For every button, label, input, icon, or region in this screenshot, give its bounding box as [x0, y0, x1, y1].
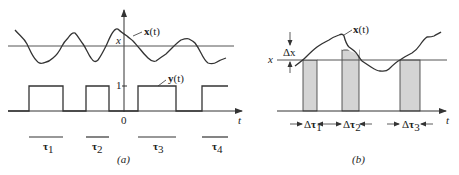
- signal-label-leader: [133, 32, 142, 36]
- shaded-interval-2: [342, 50, 359, 111]
- delta-tau-label-1: Δτ1: [304, 118, 322, 133]
- origin-label: 0: [121, 114, 127, 126]
- interval-label-2: τ2: [92, 140, 103, 155]
- panel-a: x 1 0 t x(t) y(t) τ1 τ2 τ3 τ4 (a): [8, 10, 242, 166]
- interval-label-4: τ4: [212, 140, 223, 155]
- time-axis-label: t: [238, 114, 242, 126]
- delta-tau-label-2: Δτ2: [343, 118, 361, 133]
- interval-label-3: τ3: [153, 140, 164, 155]
- indicator-label-leader: [158, 80, 166, 86]
- delta-x-label: Δx: [283, 46, 296, 58]
- level-x-label: x: [115, 34, 121, 46]
- caption-b: (b): [352, 153, 365, 166]
- signal-label: x(t): [144, 25, 160, 38]
- signal-label: x(t): [353, 23, 369, 36]
- one-label: 1: [116, 79, 122, 91]
- figure: x 1 0 t x(t) y(t) τ1 τ2 τ3 τ4 (a): [0, 0, 459, 175]
- signal-label-leader: [344, 30, 352, 35]
- interval-label-1: τ1: [43, 140, 54, 155]
- shaded-interval-1: [303, 60, 317, 111]
- indicator-label: y(t): [168, 72, 184, 85]
- panel-b: Δx x x(t) t Δτ1 Δτ2 Δτ3 (b): [267, 23, 450, 166]
- shaded-interval-3: [400, 60, 420, 111]
- caption-a: (a): [117, 153, 130, 166]
- level-x-label: x: [267, 53, 273, 65]
- time-axis-label: t: [446, 114, 450, 126]
- delta-tau-label-3: Δτ3: [402, 118, 420, 133]
